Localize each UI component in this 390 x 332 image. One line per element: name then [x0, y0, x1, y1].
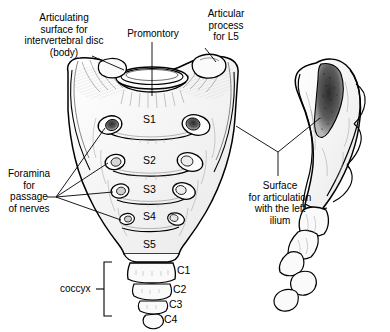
articulating-surface-label: Articulating surface for intervertebral … [4, 12, 124, 58]
sacral-segment-label-s2: S2 [143, 155, 156, 166]
sacral-segment-label-s4: S4 [143, 211, 156, 222]
sacral-segment-label-s1: S1 [143, 114, 156, 125]
lateral-coccyx-tip [274, 289, 298, 311]
left-superior-articular-process [98, 58, 126, 77]
coccygeal-segment-label-c4: C4 [164, 314, 177, 325]
coccygeal-segment-label-c2: C2 [173, 284, 186, 295]
leader-surface-articulation [236, 118, 320, 176]
articular-process-label: Articular process for L5 [196, 8, 256, 43]
surface-articulation-label: Surface for articulation with the left i… [242, 180, 318, 226]
coccyx-c4 [143, 314, 163, 329]
foramina-label: Foramina for passage of nerves [2, 168, 56, 214]
coccyx-bracket [96, 262, 112, 316]
sacral-segment-label-s5: S5 [143, 239, 156, 250]
coccygeal-segment-label-c3: C3 [169, 299, 182, 310]
coccyx-c2 [133, 284, 172, 300]
sacral-apex [124, 254, 179, 262]
sacral-segment-label-s3: S3 [143, 184, 156, 195]
promontory-label: Promontory [120, 28, 186, 40]
coccyx-bracket-label: coccyx [60, 283, 91, 294]
coccygeal-segment-label-c1: C1 [177, 265, 190, 276]
